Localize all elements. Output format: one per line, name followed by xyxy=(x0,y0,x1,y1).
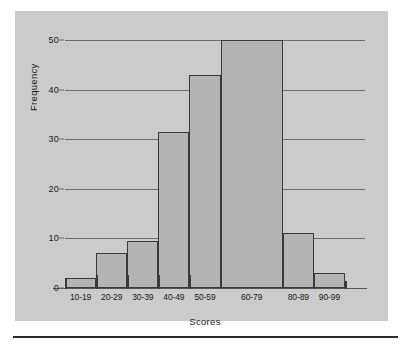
x-tick-mark xyxy=(158,275,160,289)
y-tick-mark xyxy=(59,89,64,90)
y-tick-mark xyxy=(59,238,64,239)
bar-60-79 xyxy=(221,40,283,288)
x-tick-label-20-29: 20-29 xyxy=(101,292,122,302)
y-tick-label: 50 xyxy=(49,35,59,45)
y-tick-label: 30 xyxy=(49,134,59,144)
x-tick-label-40-49: 40-49 xyxy=(163,292,184,302)
x-tick-mark xyxy=(314,275,316,289)
bottom-rule xyxy=(13,336,398,338)
x-axis-title: Scores xyxy=(65,316,345,327)
x-tick-mark xyxy=(96,275,98,289)
bar-30-39 xyxy=(127,241,158,288)
bar-90-99 xyxy=(314,273,345,288)
x-tick-label-10-19: 10-19 xyxy=(70,292,91,302)
chart-panel: 01020304050 10-1920-2930-3940-4950-5960-… xyxy=(15,11,388,321)
x-tick-mark xyxy=(127,275,129,289)
bar-80-89 xyxy=(283,233,314,288)
y-tick-label: 0 xyxy=(54,283,59,293)
x-axis-line xyxy=(53,288,367,289)
y-axis-title: Frequency xyxy=(28,63,39,111)
y-tick-label: 40 xyxy=(49,85,59,95)
x-tick-mark xyxy=(189,275,191,289)
plot-area: 01020304050 10-1920-2930-3940-4950-5960-… xyxy=(65,40,345,288)
x-tick-mark xyxy=(65,279,67,289)
x-tick-label-60-79: 60-79 xyxy=(241,292,262,302)
x-tick-mark xyxy=(283,275,285,289)
y-tick-mark xyxy=(59,288,64,289)
x-tick-label-30-39: 30-39 xyxy=(132,292,153,302)
x-tick-label-90-99: 90-99 xyxy=(319,292,340,302)
bar-50-59 xyxy=(189,75,220,288)
gridline xyxy=(65,40,365,41)
bar-20-29 xyxy=(96,253,127,288)
y-tick-label: 20 xyxy=(49,184,59,194)
x-tick-mark xyxy=(221,275,223,289)
y-tick-mark xyxy=(59,139,64,140)
y-tick-mark xyxy=(59,188,64,189)
bar-10-19 xyxy=(65,278,96,288)
y-tick-label: 10 xyxy=(49,233,59,243)
x-tick-mark xyxy=(345,281,347,289)
bar-40-49 xyxy=(158,132,189,288)
x-tick-label-50-59: 50-59 xyxy=(194,292,215,302)
x-tick-label-80-89: 80-89 xyxy=(288,292,309,302)
y-tick-mark xyxy=(59,40,64,41)
